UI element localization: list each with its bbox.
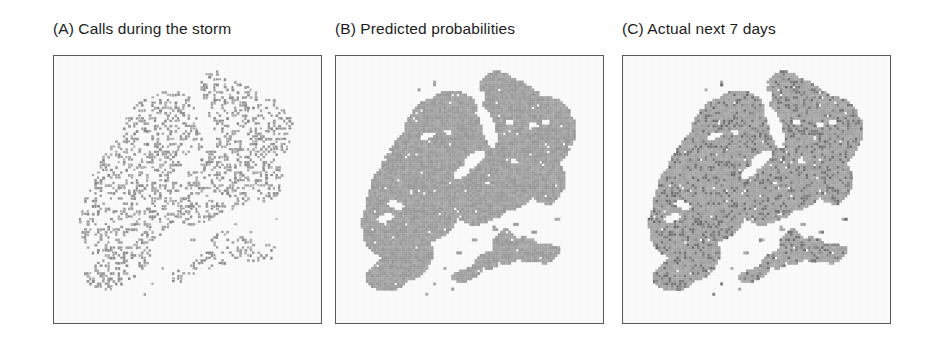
panel-c-frame (622, 55, 891, 324)
panel-c-title: (C) Actual next 7 days (622, 20, 776, 38)
panel-b-frame (335, 55, 604, 324)
figure-panel-group: (A) Calls during the storm (B) Predicted… (0, 0, 935, 342)
panel-b-title: (B) Predicted probabilities (335, 20, 515, 38)
panel-b-map (336, 56, 603, 323)
panel-a-title: (A) Calls during the storm (53, 20, 231, 38)
panel-a-map (54, 56, 321, 323)
panel-c-map (623, 56, 890, 323)
panel-a-frame (53, 55, 322, 324)
